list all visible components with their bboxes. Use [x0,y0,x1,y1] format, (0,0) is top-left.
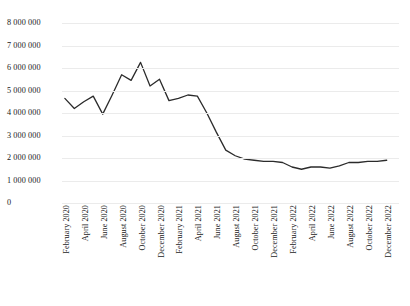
y-tick-label: 5 000 000 [0,86,56,95]
gridline [62,136,399,137]
x-tick-label: June 2020 [100,205,109,239]
x-tick-label-text: October 2020 [138,205,147,250]
x-tick-label-text: August 2021 [232,205,241,248]
y-tick-label: 7 000 000 [0,41,56,50]
x-tick-label-text: August 2020 [119,205,128,248]
x-tick-label-text: April 2022 [308,205,317,241]
x-tick-label: August 2021 [232,205,241,248]
x-tick-label: June 2021 [213,205,222,239]
y-tick-label: 2 000 000 [0,153,56,162]
x-tick-label: February 2021 [175,205,184,254]
gridline [62,113,399,114]
x-tick-label: June 2022 [327,205,336,239]
x-tick-label-text: December 2021 [270,205,279,258]
x-tick-label: August 2020 [119,205,128,248]
plot-area [62,23,399,203]
x-tick-label: December 2022 [384,205,393,258]
y-tick-label: 4 000 000 [0,108,56,117]
gridline [62,203,399,204]
gridline [62,181,399,182]
x-tick-label: August 2022 [346,205,355,248]
x-tick-label-text: October 2022 [365,205,374,250]
x-tick-label-text: October 2021 [251,205,260,250]
y-tick-label: 6 000 000 [0,63,56,72]
x-tick-label: April 2021 [194,205,203,241]
x-tick-label: February 2020 [62,205,71,254]
gridline [62,23,399,24]
gridline [62,91,399,92]
gridline [62,46,399,47]
y-tick-label: 8 000 000 [0,18,56,27]
y-tick-label: 0 [0,198,56,207]
x-tick-label: February 2022 [289,205,298,254]
x-tick-label-text: February 2022 [289,205,298,254]
y-axis: 8 000 0007 000 0006 000 0005 000 0004 00… [0,0,56,240]
x-tick-label-text: June 2020 [100,205,109,239]
x-tick-label: April 2022 [308,205,317,241]
x-tick-label-text: April 2020 [81,205,90,241]
x-tick-label-text: February 2021 [175,205,184,254]
gridline [62,68,399,69]
x-tick-label-text: June 2022 [327,205,336,239]
x-tick-label: October 2022 [365,205,374,250]
x-tick-label: December 2020 [157,205,166,258]
x-tick-label-text: December 2020 [157,205,166,258]
gridline [62,158,399,159]
x-axis: February 2020April 2020June 2020August 2… [62,205,399,305]
x-tick-label: April 2020 [81,205,90,241]
x-tick-label: October 2021 [251,205,260,250]
line-chart: 8 000 0007 000 0006 000 0005 000 0004 00… [0,0,410,306]
y-tick-label: 1 000 000 [0,176,56,185]
x-tick-label: October 2020 [138,205,147,250]
x-tick-label-text: August 2022 [346,205,355,248]
x-tick-label-text: December 2022 [384,205,393,258]
series-path [65,62,387,169]
x-tick-label-text: February 2020 [62,205,71,254]
x-tick-label-text: June 2021 [213,205,222,239]
y-tick-label: 3 000 000 [0,131,56,140]
x-tick-label-text: April 2021 [194,205,203,241]
x-tick-label: December 2021 [270,205,279,258]
